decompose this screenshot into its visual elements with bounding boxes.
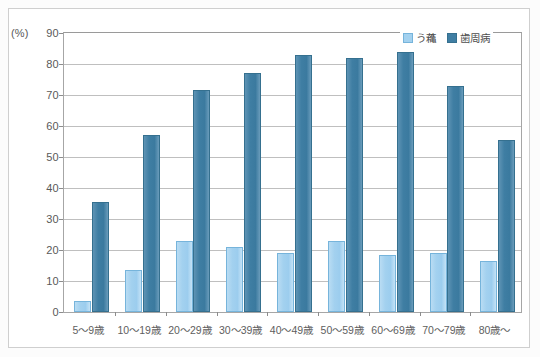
bar-caries[interactable] — [74, 301, 91, 312]
bar-perio[interactable] — [397, 52, 414, 312]
y-axis-tick-label: 50 — [46, 152, 59, 163]
x-axis: 5〜9歳10〜19歳20〜29歳30〜39歳40〜49歳50〜59歳60〜69歳… — [63, 316, 522, 342]
bar-group — [318, 33, 369, 312]
y-axis-tick-label: 10 — [46, 276, 59, 287]
bar-perio[interactable] — [244, 73, 261, 312]
x-axis-tick-label: 20〜29歳 — [165, 322, 216, 337]
chart-page: (%) 9080706050403020100 5〜9歳10〜19歳20〜29歳… — [0, 0, 540, 357]
bar-caries[interactable] — [480, 261, 497, 312]
y-axis-tick-label: 80 — [46, 59, 59, 70]
bar-perio[interactable] — [498, 140, 515, 312]
light-blue-swatch-icon — [403, 33, 413, 43]
x-axis-tick-label: 80歳〜 — [469, 322, 520, 337]
bar-group — [216, 33, 267, 312]
bar-group — [64, 33, 115, 312]
bar-group — [419, 33, 470, 312]
bar-perio[interactable] — [92, 202, 109, 312]
legend-label-caries: う蘒 — [416, 30, 436, 45]
legend-item-perio[interactable]: 歯周病 — [447, 30, 490, 45]
bar-caries[interactable] — [176, 241, 193, 312]
x-axis-tick-label: 40〜49歳 — [266, 322, 317, 337]
y-axis-tick-label: 20 — [46, 245, 59, 256]
bar-caries[interactable] — [379, 255, 396, 312]
bar-caries[interactable] — [430, 253, 447, 312]
bar-group — [267, 33, 318, 312]
bar-perio[interactable] — [447, 86, 464, 312]
legend-item-caries[interactable]: う蘒 — [403, 30, 436, 45]
x-axis-tick-label: 5〜9歳 — [63, 322, 114, 337]
y-axis: 9080706050403020100 — [8, 24, 63, 321]
dark-blue-swatch-icon — [447, 33, 457, 43]
bar-group — [115, 33, 166, 312]
bar-caries[interactable] — [328, 241, 345, 312]
bar-caries[interactable] — [226, 247, 243, 312]
x-axis-tick-label: 70〜79歳 — [418, 322, 469, 337]
y-axis-tick-label: 60 — [46, 121, 59, 132]
y-axis-tick-label: 90 — [46, 28, 59, 39]
chart-legend: う蘒 歯周病 — [400, 30, 493, 45]
bar-perio[interactable] — [295, 55, 312, 312]
bar-perio[interactable] — [346, 58, 363, 312]
bar-group — [369, 33, 420, 312]
legend-label-perio: 歯周病 — [460, 30, 490, 45]
x-axis-tick-label: 50〜59歳 — [317, 322, 368, 337]
y-axis-tick-label: 70 — [46, 90, 59, 101]
y-axis-tick-label: 30 — [46, 214, 59, 225]
bar-caries[interactable] — [125, 270, 142, 312]
bar-perio[interactable] — [143, 135, 160, 312]
y-axis-tick-label: 40 — [46, 183, 59, 194]
bar-group — [166, 33, 217, 312]
y-axis-tick-label: 0 — [53, 307, 59, 318]
x-axis-tick-label: 30〜39歳 — [215, 322, 266, 337]
x-axis-tick-label: 10〜19歳 — [114, 322, 165, 337]
bar-caries[interactable] — [277, 253, 294, 312]
bar-group — [470, 33, 521, 312]
bar-series-container — [64, 33, 521, 312]
bar-perio[interactable] — [193, 90, 210, 312]
x-axis-tick-label: 60〜69歳 — [368, 322, 419, 337]
